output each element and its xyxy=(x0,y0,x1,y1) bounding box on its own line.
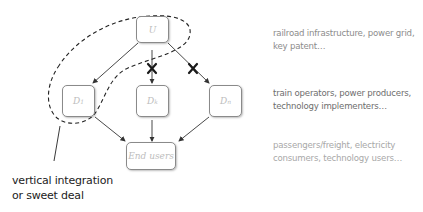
annotation-pointer xyxy=(54,126,60,161)
node-subscript: 1 xyxy=(80,98,84,105)
desc-end-users: passengers/freight, electricity consumer… xyxy=(273,139,402,165)
node-label: U xyxy=(149,25,157,35)
diagram-canvas: U D1 Dk Dn End users railroad infrastruc… xyxy=(0,0,423,212)
desc-upstream: railroad infrastructure, power grid, key… xyxy=(273,27,414,53)
edge-u-dn xyxy=(168,43,209,83)
node-label: D xyxy=(147,96,154,106)
edge-dn-end xyxy=(179,117,209,141)
blocked-cross-icon xyxy=(148,64,197,73)
node-subscript: k xyxy=(154,98,158,105)
node-d1: D1 xyxy=(62,85,95,117)
node-label: End users xyxy=(128,151,174,161)
edge-d1-end xyxy=(95,117,125,141)
node-dk: Dk xyxy=(136,85,169,117)
node-dn: Dn xyxy=(209,85,242,117)
node-upstream: U xyxy=(136,16,169,43)
integration-annotation: vertical integration or sweet deal xyxy=(12,173,113,203)
node-label: D xyxy=(220,96,227,106)
node-end-users: End users xyxy=(126,142,176,170)
desc-downstream: train operators, power producers, techno… xyxy=(273,87,411,113)
node-subscript: n xyxy=(227,98,231,105)
node-label: D xyxy=(73,96,80,106)
